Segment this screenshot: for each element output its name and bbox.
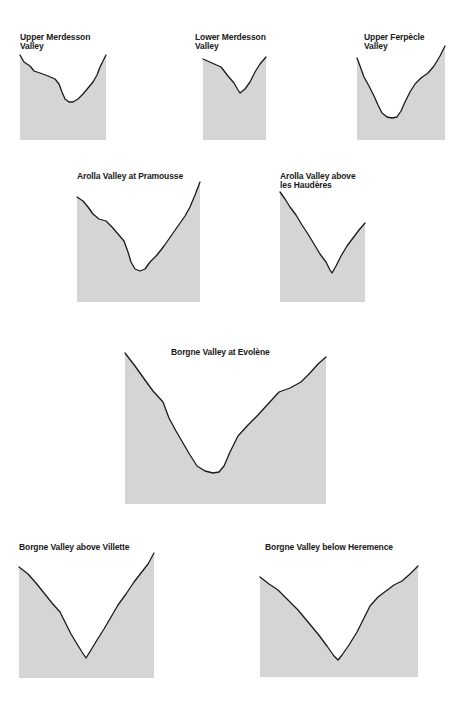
valley-profile-lower-merdesson bbox=[203, 57, 266, 140]
terrain-fill bbox=[280, 192, 365, 302]
panel-title-lower-merdesson: Lower Merdesson Valley bbox=[195, 33, 266, 51]
panel-title-borgne-villette: Borgne Valley above Villette bbox=[19, 543, 129, 552]
terrain-fill bbox=[125, 353, 326, 504]
terrain-fill bbox=[260, 566, 418, 677]
valley-profile-arolla-haudères bbox=[280, 192, 365, 302]
terrain-fill bbox=[77, 182, 200, 302]
terrain-fill bbox=[20, 55, 106, 140]
panel-title-borgne-evolene: Borgne Valley at Evolène bbox=[171, 348, 270, 357]
panel-title-borgne-heremence: Borgne Valley below Heremence bbox=[265, 543, 393, 552]
valley-profile-upper-ferpecle bbox=[357, 46, 445, 140]
valley-profile-arolla-pramousse bbox=[77, 182, 200, 302]
panel-title-arolla-haudères: Arolla Valley above les Haudères bbox=[280, 172, 356, 190]
valley-profile-borgne-evolene bbox=[125, 353, 326, 504]
terrain-fill bbox=[357, 46, 445, 140]
panel-title-upper-merdesson: Upper Merdesson Valley bbox=[20, 33, 90, 51]
valley-profiles-canvas bbox=[0, 0, 466, 718]
valley-profile-borgne-heremence bbox=[260, 566, 418, 677]
valley-profile-borgne-villette bbox=[19, 553, 154, 678]
panel-title-upper-ferpecle: Upper Ferpècle Valley bbox=[364, 33, 424, 51]
valley-profile-upper-merdesson bbox=[20, 55, 106, 140]
panel-title-arolla-pramousse: Arolla Valley at Pramousse bbox=[77, 172, 183, 181]
terrain-fill bbox=[19, 553, 154, 678]
